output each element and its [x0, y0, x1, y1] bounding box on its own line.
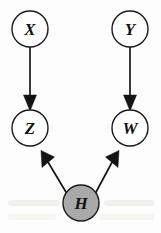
node-h-label: H: [73, 194, 88, 213]
node-x[interactable]: X: [12, 11, 48, 47]
dag-canvas: X Y Z W H: [0, 0, 161, 233]
node-w[interactable]: W: [112, 110, 148, 146]
edge-y-to-w-arrowhead: [124, 95, 137, 111]
background-smudge-left-bottom: [8, 214, 56, 220]
edge-x-to-z: [24, 47, 37, 111]
background-smudge-right-bottom: [100, 214, 154, 220]
background-smudge-right-lower: [104, 200, 154, 206]
edge-h-to-z-shaft: [47, 160, 67, 193]
node-z[interactable]: Z: [12, 110, 48, 146]
edge-h-to-w: [96, 151, 119, 193]
edge-h-to-w-arrowhead: [106, 151, 120, 168]
edge-h-to-z: [41, 151, 66, 193]
node-x-label: X: [23, 20, 36, 39]
edge-h-to-z-arrowhead: [41, 151, 55, 168]
background-smudge-left-lower: [8, 200, 60, 206]
node-z-label: Z: [24, 119, 35, 138]
node-h[interactable]: H: [63, 185, 99, 221]
dag-nodes: X Y Z W H: [12, 11, 148, 221]
node-y[interactable]: Y: [112, 11, 148, 47]
node-w-label: W: [122, 119, 139, 138]
causal-dag-figure: X Y Z W H: [0, 0, 161, 233]
edge-h-to-w-shaft: [96, 160, 114, 193]
node-y-label: Y: [125, 20, 137, 39]
edge-x-to-z-arrowhead: [24, 95, 37, 111]
edge-y-to-w: [124, 47, 137, 111]
